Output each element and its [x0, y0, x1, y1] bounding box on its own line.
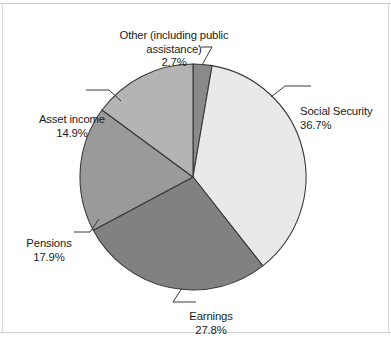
pie-chart-figure: Other (including public assistance) 2.7%…: [0, 0, 391, 339]
slice-value-other: 2.7%: [100, 56, 248, 69]
slice-label-other-line1: Other (including public: [120, 29, 229, 41]
slice-value-pensions: 17.9%: [6, 251, 92, 264]
slice-label-other: Other (including public assistance) 2.7%: [100, 16, 248, 83]
slice-value-earnings: 27.8%: [166, 324, 256, 337]
slice-label-earnings-text: Earnings: [189, 310, 232, 322]
slice-label-social-security-text: Social Security: [300, 105, 372, 117]
slice-label-other-line2: assistance): [146, 43, 202, 55]
slice-label-asset-income: Asset income 14.9%: [20, 100, 124, 154]
slice-label-earnings: Earnings 27.8%: [166, 297, 256, 339]
slice-label-pensions-text: Pensions: [26, 237, 71, 249]
slice-value-social-security: 36.7%: [300, 119, 391, 132]
slice-label-social-security: Social Security 36.7%: [300, 92, 391, 146]
slice-label-pensions: Pensions 17.9%: [6, 224, 92, 278]
slice-label-asset-income-text: Asset income: [39, 113, 105, 125]
slice-value-asset-income: 14.9%: [20, 127, 124, 140]
